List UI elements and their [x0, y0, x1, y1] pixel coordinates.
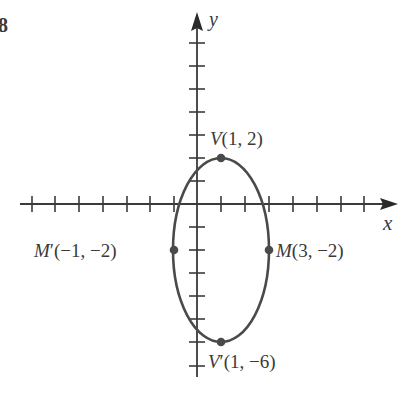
label-v-prime: V′(1, −6)	[208, 351, 276, 373]
point-m-prime	[170, 246, 179, 255]
point-v-prime	[217, 338, 226, 347]
point-v	[217, 154, 226, 163]
label-m: M(3, −2)	[275, 240, 344, 262]
y-axis-label: y	[207, 8, 218, 31]
ellipse-points	[170, 154, 274, 347]
ellipse-diagram: 8 x	[0, 0, 413, 396]
label-v: V(1, 2)	[210, 128, 263, 150]
ellipse-curve	[173, 158, 269, 342]
label-m-prime: M′(−1, −2)	[33, 240, 117, 262]
y-axis: y	[189, 8, 218, 377]
x-axis-label: x	[382, 211, 393, 235]
x-axis: x	[20, 196, 398, 235]
point-m	[265, 246, 274, 255]
figure-number: 8	[0, 14, 8, 36]
